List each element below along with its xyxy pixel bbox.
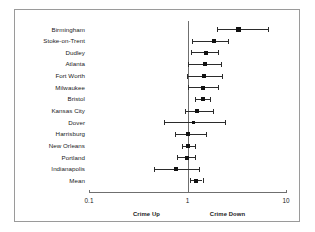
row-label-dover: Dover <box>15 119 85 126</box>
confidence-interval-cap <box>154 167 155 172</box>
forest-plot: BirminghamStoke-on-TrentDudleyAtlantaFor… <box>15 10 301 223</box>
confidence-interval-cap <box>228 39 229 44</box>
confidence-interval-cap <box>195 97 196 102</box>
confidence-interval-cap <box>199 167 200 172</box>
x-axis-tick <box>286 190 287 193</box>
confidence-interval-cap <box>222 74 223 79</box>
row-label-bristol: Bristol <box>15 95 85 102</box>
confidence-interval-cap <box>182 144 183 149</box>
row-label-stoke-on-trent: Stoke-on-Trent <box>15 37 85 44</box>
estimate-marker <box>185 156 189 160</box>
x-axis-tick-label-2: 10 <box>271 197 301 204</box>
reference-line <box>188 21 189 192</box>
row-label-harrisburg: Harrisburg <box>15 130 85 137</box>
row-label-new-orleans: New Orleans <box>15 142 85 149</box>
confidence-interval-cap <box>185 109 186 114</box>
confidence-interval-line <box>217 29 268 30</box>
x-axis-tick-label-0: 0.1 <box>74 197 104 204</box>
confidence-interval-cap <box>225 120 226 125</box>
confidence-interval-cap <box>188 85 189 90</box>
x-axis-tick <box>188 190 189 193</box>
row-label-milwaukee: Milwaukee <box>15 84 85 91</box>
confidence-interval-cap <box>175 132 176 137</box>
confidence-interval-cap <box>195 155 196 160</box>
row-label-kansas-city: Kansas City <box>15 107 85 114</box>
direction-label-crime-up: Crime Up <box>117 211 177 217</box>
confidence-interval-cap <box>188 62 189 67</box>
row-label-birmingham: Birmingham <box>15 26 85 33</box>
estimate-marker <box>195 109 199 113</box>
estimate-marker <box>201 97 205 101</box>
estimate-marker <box>236 27 241 32</box>
estimate-marker <box>186 144 190 148</box>
estimate-marker <box>202 74 206 78</box>
row-label-portland: Portland <box>15 154 85 161</box>
confidence-interval-cap <box>213 109 214 114</box>
screenshot-root: BirminghamStoke-on-TrentDudleyAtlantaFor… <box>0 0 315 232</box>
confidence-interval-cap <box>177 155 178 160</box>
estimate-marker <box>192 121 195 124</box>
estimate-marker <box>174 167 178 171</box>
row-label-atlanta: Atlanta <box>15 60 85 67</box>
confidence-interval-cap <box>203 178 204 183</box>
estimate-marker <box>186 132 190 136</box>
confidence-interval-cap <box>187 74 188 79</box>
row-label-mean: Mean <box>15 177 85 184</box>
confidence-interval-cap <box>218 50 219 55</box>
confidence-interval-line <box>192 41 228 42</box>
figure-frame: BirminghamStoke-on-TrentDudleyAtlantaFor… <box>14 9 300 222</box>
confidence-interval-cap <box>190 178 191 183</box>
estimate-marker <box>201 86 205 90</box>
confidence-interval-cap <box>268 27 269 32</box>
confidence-interval-cap <box>218 85 219 90</box>
confidence-interval-cap <box>192 39 193 44</box>
confidence-interval-cap <box>221 62 222 67</box>
x-axis-tick <box>89 190 90 193</box>
confidence-interval-cap <box>206 132 207 137</box>
confidence-interval-line <box>175 134 206 135</box>
confidence-interval-cap <box>195 144 196 149</box>
estimate-marker <box>203 62 207 66</box>
estimate-marker <box>194 179 198 183</box>
row-label-dudley: Dudley <box>15 49 85 56</box>
row-label-indianapolis: Indianapolis <box>15 165 85 172</box>
confidence-interval-cap <box>217 27 218 32</box>
direction-label-crime-down: Crime Down <box>198 211 258 217</box>
confidence-interval-cap <box>164 120 165 125</box>
row-label-fort-worth: Fort Worth <box>15 72 85 79</box>
confidence-interval-cap <box>191 50 192 55</box>
estimate-marker <box>204 51 208 55</box>
confidence-interval-cap <box>210 97 211 102</box>
x-axis-tick-label-1: 1 <box>173 197 203 204</box>
estimate-marker <box>212 39 216 43</box>
